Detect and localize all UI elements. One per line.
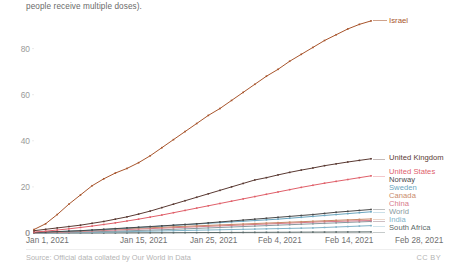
source-note: Source: Official data collated by Our Wo… [26, 253, 191, 262]
plot-area [0, 0, 449, 269]
legend-connector-united-states [373, 176, 385, 177]
x-tick-1: Jan 15, 2021 [120, 236, 167, 245]
x-tick-3: Feb 4, 2021 [258, 236, 302, 245]
y-tick-80: 80 [8, 44, 30, 54]
legend-connector-israel [373, 20, 387, 21]
x-tick-0: Jan 1, 2021 [26, 236, 69, 245]
legend-connector-united-kingdom [373, 159, 385, 160]
x-tick-2: Jan 25, 2021 [190, 236, 237, 245]
vaccination-line-chart: people receive multiple doses). 02040608… [0, 0, 449, 269]
legend-connector-sweden [373, 212, 385, 213]
x-tick-5: Feb 28, 2021 [395, 236, 443, 245]
series-canada [33, 218, 372, 233]
license-note: CC BY [416, 253, 441, 262]
y-tick-40: 40 [8, 136, 30, 146]
footer-divider [26, 249, 440, 250]
y-tick-60: 60 [8, 90, 30, 100]
legend-connector-world [373, 221, 385, 222]
y-tick-20: 20 [8, 182, 30, 192]
legend-item-united-kingdom[interactable]: United Kingdom [389, 153, 444, 162]
legend-connector-south-africa [373, 232, 385, 233]
legend-item-south-africa[interactable]: South Africa [389, 223, 431, 232]
legend-connector-india [373, 226, 385, 227]
series-israel [33, 20, 372, 230]
legend-connector-norway [373, 209, 385, 210]
x-tick-4: Feb 14, 2021 [325, 236, 373, 245]
legend-item-israel[interactable]: Israel [389, 16, 408, 25]
